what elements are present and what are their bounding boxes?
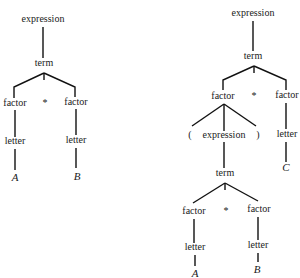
tree-node-a: A	[11, 171, 19, 183]
tree-node-: (	[188, 129, 192, 141]
tree-edge	[192, 104, 224, 126]
tree-node-term: term	[35, 57, 54, 68]
tree-node-: *	[252, 90, 257, 101]
parse-tree-diagram: expressiontermfactor*factorletterletterA…	[0, 0, 300, 278]
tree-node-expression: expression	[203, 129, 246, 140]
tree-node-letter: letter	[277, 128, 298, 139]
tree-node-factor: factor	[64, 96, 88, 107]
tree-edge	[14, 73, 44, 98]
tree-node-letter: letter	[66, 134, 87, 145]
tree-node-a: A	[191, 267, 199, 278]
tree-node-b: B	[254, 263, 261, 275]
tree-node-expression: expression	[232, 7, 275, 18]
tree-node-: )	[256, 129, 259, 141]
tree-node-factor: factor	[3, 97, 27, 108]
tree-node-letter: letter	[5, 135, 26, 146]
tree-node-b: B	[74, 170, 81, 182]
tree-node-term: term	[216, 167, 235, 178]
tree-edge	[224, 104, 256, 126]
tree-node-c: C	[282, 161, 290, 173]
tree-right-edges	[192, 21, 286, 266]
tree-edge	[44, 73, 75, 97]
tree-edge	[225, 183, 258, 201]
tree-nodes: expressiontermfactor*factorletterletterA…	[3, 7, 299, 278]
tree-node-factor: factor	[182, 205, 206, 216]
tree-node-: *	[43, 97, 48, 108]
tree-node-factor: factor	[211, 90, 235, 101]
tree-right-nodes: expressiontermfactor*factor(expression)l…	[182, 7, 299, 278]
tree-node-letter: letter	[248, 239, 269, 250]
tree-node-letter: letter	[185, 241, 206, 252]
tree-node-factor: factor	[247, 203, 271, 214]
tree-node-: *	[224, 205, 229, 216]
tree-edge	[254, 66, 286, 90]
tree-node-factor: factor	[275, 89, 299, 100]
tree-node-term: term	[244, 50, 263, 61]
tree-edge	[223, 66, 254, 90]
tree-node-expression: expression	[22, 13, 65, 24]
tree-edge	[193, 183, 225, 203]
